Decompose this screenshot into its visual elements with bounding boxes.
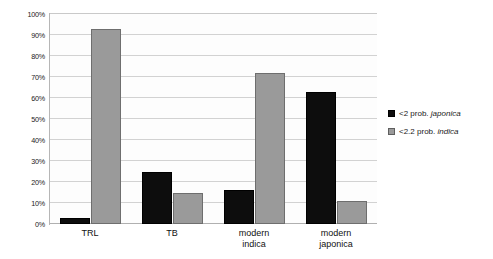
bar-group [60,14,121,224]
x-axis-labels: TRLTBmodern indicamodern japonica [49,228,377,259]
bar[interactable] [60,218,90,224]
chart-screenshot: 0%10%20%30%40%50%60%70%80%90%100% TRLTBm… [0,0,493,259]
bar-chart: 0%10%20%30%40%50%60%70%80%90%100% TRLTBm… [0,0,493,259]
y-axis-tick-label: 50% [0,115,45,124]
y-axis-tick-label: 40% [0,136,45,145]
y-axis-tick-label: 0% [0,220,45,229]
x-axis-tick-label: modern japonica [295,228,377,249]
bar[interactable] [173,193,203,225]
bar-group [306,14,367,224]
y-axis-tick-label: 80% [0,52,45,61]
y-axis-tick-label: 90% [0,31,45,40]
legend-label: <2.2 prob. indica [399,127,458,136]
y-axis-tick-label: 70% [0,73,45,82]
x-axis-tick-label: TB [131,228,213,239]
bar[interactable] [142,172,172,225]
bar-group [142,14,203,224]
bars-layer [49,14,377,224]
y-axis-tick-label: 30% [0,157,45,166]
y-axis-tick-label: 100% [0,10,45,19]
chart-legend: <2 prob. japonica<2.2 prob. indica [388,108,493,144]
legend-item[interactable]: <2.2 prob. indica [388,126,493,137]
x-axis-tick-label: modern indica [213,228,295,249]
y-axis-tick-label: 20% [0,178,45,187]
legend-swatch-icon [388,110,395,117]
bar[interactable] [255,73,285,224]
legend-label: <2 prob. japonica [399,109,461,118]
bar[interactable] [337,201,367,224]
bar[interactable] [306,92,336,224]
y-axis-tick-label: 10% [0,199,45,208]
x-axis-tick-label: TRL [49,228,131,239]
bar[interactable] [91,29,121,224]
legend-swatch-icon [388,128,395,135]
y-axis-tick-label: 60% [0,94,45,103]
y-axis-labels: 0%10%20%30%40%50%60%70%80%90%100% [0,0,45,259]
bar-group [224,14,285,224]
legend-item[interactable]: <2 prob. japonica [388,108,493,119]
bar[interactable] [224,190,254,224]
